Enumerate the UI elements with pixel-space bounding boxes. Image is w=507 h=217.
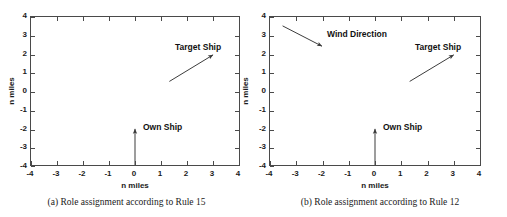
panel-a-plot-area: Own Ship Target Ship	[30, 16, 240, 166]
panel-b-xtick-top-4	[375, 17, 376, 21]
panel-b-ytick-2	[270, 55, 274, 56]
panel-b-xticklabel-3: -1	[344, 170, 351, 178]
panel-b-xtick-top-6	[428, 17, 429, 21]
panel-b-caption: (b) Role assignment according to Rule 12	[253, 197, 507, 207]
panel-a-yticklabel-0: 4	[18, 12, 27, 20]
panel-b-target-ship-vector	[410, 55, 454, 82]
panel-b-ytick-0	[270, 17, 274, 18]
panel-a-ytick-right-2	[235, 55, 239, 56]
panel-a-ytick-3	[31, 73, 35, 74]
panel-a-ytick-6	[31, 130, 35, 131]
panel-a-xtick-top-1	[57, 17, 58, 21]
panel-b-xtick-top-1	[296, 17, 297, 21]
panel-b-yticklabel-4: 0	[257, 87, 266, 95]
panel-a-xtick-top-3	[109, 17, 110, 21]
panel-a-ytick-right-6	[235, 130, 239, 131]
panel-b-target-ship-label: Target Ship	[415, 43, 461, 52]
panel-a-ytick-right-7	[235, 148, 239, 149]
panel-a-ytick-right-4	[235, 92, 239, 93]
panel-a-yticklabel-1: 3	[18, 31, 27, 39]
panel-b-ytick-1	[270, 36, 274, 37]
panel-a-xticklabel-1: -3	[52, 170, 59, 178]
panel-a-xtick-top-4	[135, 17, 136, 21]
panel-b-ytick-right-7	[476, 148, 480, 149]
panel-a-yticklabel-7: -3	[16, 143, 27, 151]
panel-a-xticklabel-8: 4	[236, 170, 240, 178]
panel-b-xticklabel-2: -2	[318, 170, 325, 178]
panel-a-yticklabel-4: 0	[18, 87, 27, 95]
panel-b-xtick-2	[323, 161, 324, 165]
panel-b-ytick-5	[270, 111, 274, 112]
panel-b-ytick-3	[270, 73, 274, 74]
panel-b-ytick-right-6	[476, 130, 480, 131]
panel-a-xticklabel-7: 3	[210, 170, 214, 178]
panel-b-wind-direction-label: Wind Direction	[327, 30, 387, 39]
panel-b-own-ship-label: Own Ship	[383, 123, 422, 132]
panel-a-ytick-7	[31, 148, 35, 149]
panel-a-yticklabel-3: 1	[18, 68, 27, 76]
panel-a-yticklabel-5: -1	[16, 106, 27, 114]
panel-a-ytick-right-5	[235, 111, 239, 112]
panel-a-xticklabel-3: -1	[104, 170, 111, 178]
panel-b-vectors	[270, 17, 480, 165]
panel-b-ytick-right-2	[476, 55, 480, 56]
panel-a-yticklabel-6: -2	[16, 125, 27, 133]
panel-b-xtick-1	[296, 161, 297, 165]
panel-b-yticklabel-6: -2	[255, 125, 266, 133]
panel-b-xticklabel-7: 3	[451, 170, 455, 178]
panel-b-ytick-right-3	[476, 73, 480, 74]
panel-b-yticklabel-5: -1	[255, 106, 266, 114]
panel-b-xticklabel-1: -3	[292, 170, 299, 178]
panel-b-yticklabel-0: 4	[257, 12, 266, 20]
panel-a-ytick-right-1	[235, 36, 239, 37]
panel-a-xtick-top-7	[213, 17, 214, 21]
panel-b-xtick-5	[401, 161, 402, 165]
panel-a-xtick-5	[161, 161, 162, 165]
panel-b: n miles	[253, 0, 507, 217]
panel-a-target-ship-label: Target Ship	[175, 43, 221, 52]
panel-a-xtick-1	[57, 161, 58, 165]
panel-a-y-axis-title: n miles	[7, 77, 16, 105]
panel-b-ytick-8	[270, 166, 274, 167]
panel-b-xtick-8	[480, 161, 481, 165]
panel-b-xtick-top-3	[349, 17, 350, 21]
panel-b-ytick-4	[270, 92, 274, 93]
panel-a-caption: (a) Role assignment according to Rule 15	[0, 197, 253, 207]
panel-b-x-axis-title: n miles	[361, 181, 389, 190]
panel-b-yticklabel-2: 2	[257, 50, 266, 58]
panel-b-ytick-7	[270, 148, 274, 149]
panel-a-ytick-right-3	[235, 73, 239, 74]
panel-a-xticklabel-5: 1	[158, 170, 162, 178]
panel-a-own-ship-label: Own Ship	[143, 123, 182, 132]
panel-a-ytick-2	[31, 55, 35, 56]
panel-a-xtick-8	[239, 161, 240, 165]
panel-a-xtick-top-5	[161, 17, 162, 21]
panel-a-yticklabel-2: 2	[18, 50, 27, 58]
panel-a-xticklabel-0: -4	[26, 170, 33, 178]
panel-b-wind-direction-vector	[283, 26, 322, 46]
panel-b-plot-area: Wind Direction Own Ship Target Ship	[269, 16, 481, 166]
panel-a-xtick-top-6	[187, 17, 188, 21]
panel-a-target-ship-vector	[169, 55, 213, 82]
panel-b-xtick-0	[270, 161, 271, 165]
panel-a-xtick-2	[83, 161, 84, 165]
panel-b-yticklabel-8: -4	[255, 162, 266, 170]
panel-b-xticklabel-6: 2	[424, 170, 428, 178]
panel-a-xticklabel-4: 0	[132, 170, 136, 178]
panel-a-ytick-5	[31, 111, 35, 112]
panel-b-xtick-3	[349, 161, 350, 165]
panel-a-xtick-top-2	[83, 17, 84, 21]
panel-b-xticklabel-5: 1	[398, 170, 402, 178]
panel-b-y-axis-title: n miles	[241, 77, 250, 105]
panel-a-yticklabel-8: -4	[16, 162, 27, 170]
panel-b-xtick-6	[428, 161, 429, 165]
panel-b-yticklabel-7: -3	[255, 143, 266, 151]
panel-b-ytick-right-1	[476, 36, 480, 37]
panel-a-vectors	[31, 17, 239, 165]
panel-a-ytick-8	[31, 166, 35, 167]
panel-b-xtick-top-2	[323, 17, 324, 21]
panel-a-xtick-7	[213, 161, 214, 165]
panel-a-ytick-0	[31, 17, 35, 18]
panel-b-ytick-6	[270, 130, 274, 131]
panel-b-ytick-right-4	[476, 92, 480, 93]
